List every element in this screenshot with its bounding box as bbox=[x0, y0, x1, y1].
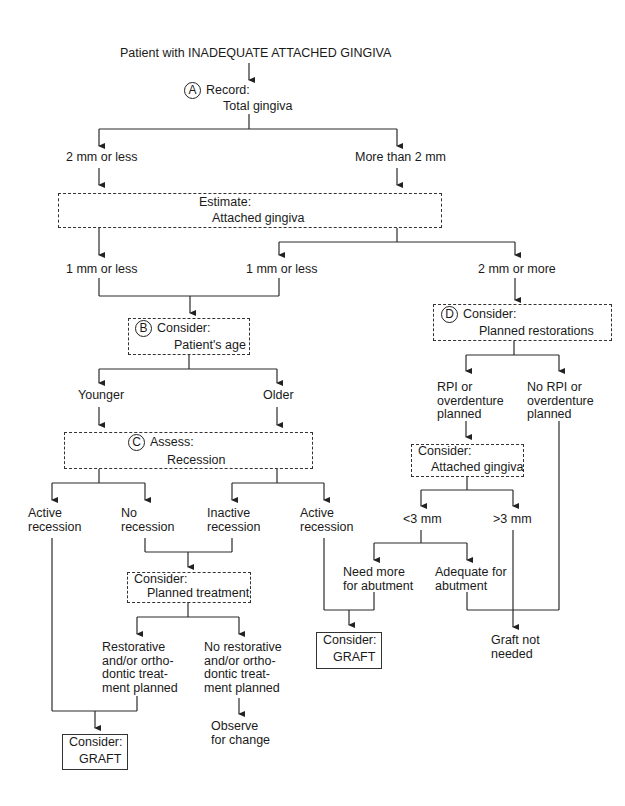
line: recession bbox=[207, 520, 261, 534]
inactive-recession: Inactiverecession bbox=[207, 507, 261, 534]
need-more-abutment: Need morefor abutment bbox=[343, 566, 413, 593]
att-le1-mid: 1 mm or less bbox=[246, 263, 318, 277]
consider-attached-label: Consider: bbox=[418, 445, 472, 459]
active-recession-left: Activerecession bbox=[28, 507, 82, 534]
line: dontic treat- bbox=[204, 667, 270, 681]
active-recession-right: Activerecession bbox=[300, 507, 354, 534]
line: Need more bbox=[343, 565, 405, 579]
line: needed bbox=[491, 647, 533, 661]
line: recession bbox=[28, 520, 82, 534]
gt-3mm: >3 mm bbox=[493, 513, 532, 527]
line: Inactive bbox=[207, 506, 250, 520]
graft-mid-label: Consider: bbox=[323, 634, 377, 648]
node-c-sub: Recession bbox=[167, 454, 225, 468]
line: for change bbox=[211, 733, 270, 747]
no-recession: Norecession bbox=[121, 507, 175, 534]
node-a-sub: Total gingiva bbox=[223, 100, 293, 114]
line: dontic treat- bbox=[102, 667, 168, 681]
adequate-abutment: Adequate forabutment bbox=[435, 566, 507, 593]
planned-treatment-label: Consider: bbox=[134, 573, 188, 587]
line: overdenture bbox=[437, 394, 504, 408]
line: overdenture bbox=[527, 394, 594, 408]
root-title: Patient with INADEQUATE ATTACHED GINGIVA bbox=[120, 47, 391, 61]
marker-c-icon: C bbox=[128, 434, 145, 451]
node-d-sub: Planned restorations bbox=[479, 325, 594, 339]
node-d-title: Consider: bbox=[463, 307, 517, 321]
consider-attached-sub: Attached gingiva bbox=[431, 461, 523, 475]
line: for abutment bbox=[343, 579, 413, 593]
line: Observe bbox=[211, 719, 258, 733]
younger: Younger bbox=[78, 389, 124, 403]
graft-not-needed: Graft notneeded bbox=[491, 634, 540, 661]
att-le1-left: 1 mm or less bbox=[66, 263, 138, 277]
line: Active bbox=[300, 506, 334, 520]
node-c-title: Assess: bbox=[150, 435, 194, 449]
no-restorative-planned: No restorativeand/or ortho-dontic treat-… bbox=[204, 641, 282, 695]
line: recession bbox=[121, 520, 175, 534]
node-a-record: ARecord: bbox=[184, 82, 250, 99]
line: No RPI or bbox=[527, 380, 582, 394]
marker-b-icon: B bbox=[135, 320, 152, 337]
line: and/or ortho- bbox=[102, 654, 174, 668]
marker-d-icon: D bbox=[441, 306, 458, 323]
total-gt2: More than 2 mm bbox=[355, 151, 446, 165]
line: ment planned bbox=[102, 681, 178, 695]
node-a-label: Record: bbox=[206, 83, 250, 97]
graft-left-sub: GRAFT bbox=[79, 753, 121, 767]
restorative-planned: Restorativeand/or ortho-dontic treat-men… bbox=[102, 641, 178, 695]
no-rpi-planned: No RPI oroverdentureplanned bbox=[527, 381, 594, 422]
line: planned bbox=[437, 407, 482, 421]
node-b-sub: Patient's age bbox=[174, 339, 246, 353]
line: Graft not bbox=[491, 633, 540, 647]
estimate-label: Estimate: bbox=[199, 196, 251, 210]
line: planned bbox=[527, 407, 572, 421]
line: No restorative bbox=[204, 640, 282, 654]
graft-mid-sub: GRAFT bbox=[333, 651, 375, 665]
estimate-sub: Attached gingiva bbox=[212, 212, 304, 226]
line: No bbox=[121, 506, 137, 520]
att-ge2: 2 mm or more bbox=[478, 263, 556, 277]
older: Older bbox=[263, 389, 294, 403]
line: abutment bbox=[435, 579, 487, 593]
line: ment planned bbox=[204, 681, 280, 695]
line: Restorative bbox=[102, 640, 165, 654]
line: Adequate for bbox=[435, 565, 507, 579]
line: and/or ortho- bbox=[204, 654, 276, 668]
marker-a-icon: A bbox=[184, 82, 201, 99]
planned-treatment-sub: Planned treatment bbox=[147, 587, 249, 601]
node-b-title: Consider: bbox=[157, 321, 211, 335]
total-le2: 2 mm or less bbox=[66, 151, 138, 165]
node-d-label: DConsider: bbox=[441, 306, 517, 323]
observe-for-change: Observefor change bbox=[211, 720, 270, 747]
line: Active bbox=[28, 506, 62, 520]
lt-3mm: <3 mm bbox=[403, 513, 442, 527]
line: recession bbox=[300, 520, 354, 534]
node-c-label: CAssess: bbox=[128, 434, 194, 451]
node-b-label: BConsider: bbox=[135, 320, 211, 337]
graft-left-label: Consider: bbox=[69, 736, 123, 750]
line: RPI or bbox=[437, 380, 472, 394]
rpi-planned: RPI oroverdentureplanned bbox=[437, 381, 504, 422]
